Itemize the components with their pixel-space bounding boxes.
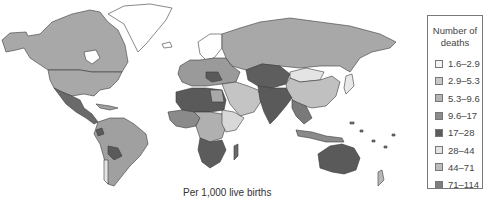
legend-title: Number of deaths <box>428 25 482 49</box>
iceland <box>162 42 172 48</box>
region-new-zealand <box>378 170 384 186</box>
region-russia <box>222 18 396 72</box>
legend-item: 71–114 <box>428 176 482 193</box>
legend-item: 28–44 <box>428 141 482 158</box>
region-japan <box>344 74 354 94</box>
caribbean <box>96 104 118 110</box>
legend-item: 2.9–5.3 <box>428 72 482 89</box>
legend-label: 5.3–9.6 <box>448 93 480 104</box>
region-canada-alaska <box>2 10 128 72</box>
region-south-asia <box>258 86 292 124</box>
legend-item: 1.6–2.9 <box>428 55 482 72</box>
pacific-islands <box>350 122 395 148</box>
region-australia <box>318 144 360 174</box>
region-central-asia <box>246 64 290 88</box>
legend-item: 9.6–17 <box>428 107 482 124</box>
legend-label: 2.9–5.3 <box>448 75 480 86</box>
legend-swatch-icon <box>435 163 443 171</box>
world-map <box>0 0 420 190</box>
legend-label: 1.6–2.9 <box>448 58 480 69</box>
map-caption: Per 1,000 live births <box>183 187 271 198</box>
region-central-africa <box>194 112 226 142</box>
legend-swatch-icon <box>435 77 443 85</box>
legend-title-line1: Number of <box>428 25 482 37</box>
legend-swatch-icon <box>435 60 443 68</box>
legend-title-line2: deaths <box>428 37 482 49</box>
legend-label: 9.6–17 <box>448 110 477 121</box>
region-indonesia <box>296 130 344 142</box>
legend-swatch-icon <box>435 181 443 189</box>
legend-swatch-icon <box>435 146 443 154</box>
legend-label: 44–71 <box>448 162 474 173</box>
legend-label: 71–114 <box>448 179 479 190</box>
legend-label: 28–44 <box>448 145 474 156</box>
region-madagascar <box>234 144 238 160</box>
legend-swatch-icon <box>435 94 443 102</box>
legend-item: 17–28 <box>428 124 482 141</box>
legend-label: 17–28 <box>448 127 474 138</box>
region-chile <box>104 160 108 184</box>
region-scandinavia <box>198 34 222 60</box>
legend: Number of deaths 1.6–2.9 2.9–5.3 5.3–9.6… <box>427 15 483 189</box>
region-southern-africa <box>198 138 226 168</box>
legend-item: 5.3–9.6 <box>428 90 482 107</box>
region-egypt <box>210 90 224 102</box>
legend-item: 44–71 <box>428 159 482 176</box>
legend-swatch-icon <box>435 129 443 137</box>
legend-swatch-icon <box>435 112 443 120</box>
